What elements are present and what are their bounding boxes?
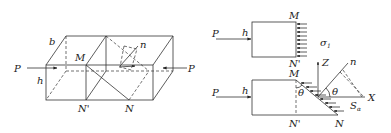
label-theta-right: θ bbox=[332, 86, 338, 97]
label-p: P bbox=[211, 28, 219, 39]
label-z: Z bbox=[321, 57, 330, 68]
label-p-left: P bbox=[13, 63, 21, 74]
inclined-body-outline bbox=[252, 80, 338, 115]
label-p-right: P bbox=[187, 63, 195, 74]
label-p: P bbox=[211, 87, 219, 98]
theta-arc-right bbox=[326, 88, 330, 97]
label-n-prime: N' bbox=[77, 103, 90, 114]
label-h: h bbox=[242, 85, 248, 96]
label-h: h bbox=[242, 27, 248, 38]
cross-section-body bbox=[252, 22, 296, 57]
label-n-prime: N' bbox=[288, 118, 301, 129]
stress-component-dash-2 bbox=[343, 70, 362, 97]
label-h: h bbox=[37, 75, 43, 86]
label-x: X bbox=[367, 92, 376, 103]
label-n: N bbox=[334, 118, 345, 129]
block-top-face bbox=[46, 36, 173, 65]
stress-component-dash-1 bbox=[340, 72, 364, 97]
block-3d-figure: P P b h M N' N n bbox=[13, 36, 195, 114]
label-n: N bbox=[124, 103, 135, 114]
label-normal-n: n bbox=[140, 39, 146, 50]
stress-arrow bbox=[119, 66, 135, 67]
section-bottom-diag bbox=[86, 71, 106, 100]
label-m: M bbox=[288, 68, 300, 79]
inclined-section-bottom bbox=[129, 71, 149, 100]
label-b: b bbox=[49, 36, 55, 47]
diagram-canvas: P P b h M N' N n P h M N' σ 1 bbox=[0, 0, 391, 133]
label-theta-left: θ bbox=[298, 87, 304, 98]
label-m: M bbox=[74, 52, 86, 63]
inclined-section-front bbox=[86, 65, 129, 100]
section-top-edge bbox=[86, 36, 106, 65]
block-front-face bbox=[46, 65, 153, 100]
cross-section-figure: P h M N' σ 1 bbox=[211, 10, 331, 69]
normal-stress-arrows bbox=[297, 24, 307, 56]
label-s: S bbox=[350, 100, 357, 111]
label-s-sub: α bbox=[357, 105, 361, 112]
label-sigma-sub: 1 bbox=[327, 42, 331, 49]
label-m: M bbox=[288, 10, 300, 21]
label-n-axis: n bbox=[350, 56, 356, 67]
